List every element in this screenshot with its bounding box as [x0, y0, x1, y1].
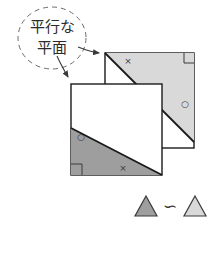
legend-group: ∽	[135, 196, 206, 216]
figure-root: 平行な 平面 × ○	[0, 0, 219, 260]
upper-plane-cross-mark: ×	[124, 56, 132, 66]
legend-light-triangle	[184, 196, 206, 216]
geometry-diagram: 平行な 平面 × ○	[0, 0, 219, 260]
legend-dark-triangle	[135, 196, 157, 216]
lower-plane-cross-mark: ×	[119, 163, 127, 173]
callout-group: 平行な 平面	[18, 7, 86, 69]
callout-line2: 平面	[37, 39, 67, 57]
upper-plane-circle-mark: ○	[181, 99, 189, 109]
lower-plane-circle-mark: ○	[77, 132, 85, 142]
lower-plane: ○ ×	[71, 84, 162, 175]
callout-line1: 平行な	[30, 18, 75, 36]
legend-similarity-symbol: ∽	[163, 196, 177, 216]
